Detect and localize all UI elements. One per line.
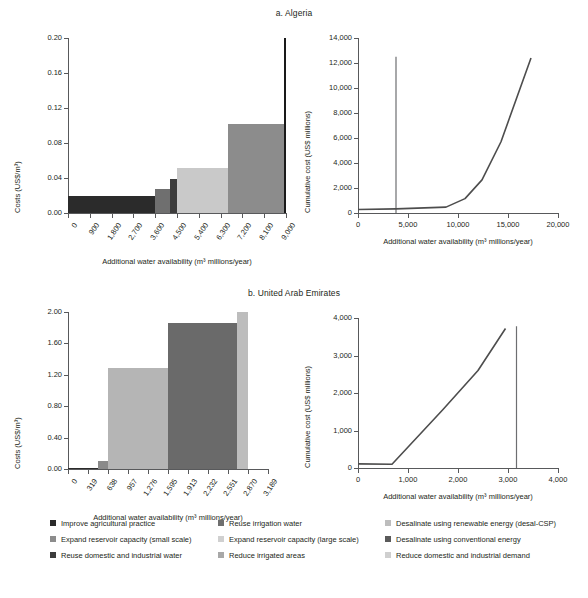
legend-swatch-icon [218,552,224,558]
x-axis-tick [248,470,249,474]
x-axis-title: Additional water availability (m³ millio… [328,492,588,501]
x-axis-tick-label: 2,000 [436,475,480,484]
y-axis-tick [64,375,68,376]
y-axis-tick-label: 0.12 [28,103,62,112]
legend-item: Improve agricultural practice [50,515,220,531]
y-axis-tick [64,38,68,39]
y-axis-tick-label: 2.00 [28,307,62,316]
legend-swatch-icon [50,536,56,542]
bar-segment [108,368,168,469]
x-axis-tick [458,214,459,218]
x-axis-tick [358,469,359,473]
y-axis-tick [354,63,358,64]
bar-segment [68,196,155,214]
y-axis-tick [354,393,358,394]
cumulative-cost-line [358,329,506,465]
chart-uae-cost-curve: 0.000.400.801.201.602.00Costs (US$/m³)03… [0,300,294,515]
y-axis-tick [354,431,358,432]
x-axis-tick [177,214,178,218]
y-axis-tick-label: 1.20 [28,370,62,379]
y-axis-line [68,312,69,469]
x-axis-tick [286,214,287,218]
y-axis-tick [64,438,68,439]
x-axis-tick [148,470,149,474]
y-axis-tick-label: 0 [318,208,352,217]
x-axis-tick [408,214,409,218]
legend-item: Expand reservoir capacity (small scale) [50,531,220,547]
legend-label: Expand reservoir capacity (small scale) [61,535,191,544]
legend-item: Expand reservoir capacity (large scale) [218,531,383,547]
bar-segment [228,124,284,213]
bar-segment [155,189,170,214]
x-axis-tick [264,214,265,218]
legend-label: Desalinate using renewable energy (desal… [396,519,556,528]
x-axis-tick [558,469,559,473]
y-axis-tick-label: 1,000 [318,426,352,435]
legend-item: Desalinate using conventional energy [385,531,585,547]
y-axis-tick-label: 6,000 [318,133,352,142]
y-axis-tick [354,356,358,357]
x-axis-tick [128,470,129,474]
legend-label: Reuse domestic and industrial water [61,551,182,560]
y-axis-tick-label: 3,000 [318,351,352,360]
y-axis-tick-label: 2,000 [318,388,352,397]
legend-label: Expand reservoir capacity (large scale) [229,535,359,544]
bar-segment [98,461,108,469]
x-axis-tick [133,214,134,218]
y-axis-tick [354,188,358,189]
y-axis-title: Costs (US$/m³) [13,417,22,469]
legend-item: Reuse irrigation water [218,515,383,531]
x-axis-tick [508,214,509,218]
x-axis-tick [242,214,243,218]
x-axis-tick [108,470,109,474]
x-axis-tick [168,470,169,474]
bar-segment [168,323,237,469]
y-axis-tick [354,163,358,164]
x-axis-tick [208,470,209,474]
x-axis-tick [155,214,156,218]
y-axis-tick [64,178,68,179]
x-axis-tick [90,214,91,218]
y-axis-tick [64,343,68,344]
panel-title-uae: b. United Arab Emirates [0,288,588,298]
x-axis-tick [199,214,200,218]
x-axis-tick-label: 10,000 [436,220,480,229]
chart-algeria-cost-curve: 0.000.040.080.120.160.20Costs (US$/m³)09… [0,20,294,260]
x-axis-tick-label: 0 [336,220,380,229]
y-axis-tick-label: 0.20 [28,33,62,42]
y-axis-tick-label: 0.16 [28,68,62,77]
legend-swatch-icon [50,520,56,526]
x-axis-tick-label: 4,000 [536,475,580,484]
y-axis-tick-label: 2,000 [318,183,352,192]
y-axis-title: Cumulative cost (US$ millions) [303,366,312,468]
bar-segment [284,38,286,213]
y-axis-title: Cumulative cost (US$ millions) [303,111,312,213]
legend-swatch-icon [218,536,224,542]
y-axis-tick-label: 0.40 [28,433,62,442]
cumulative-cost-line [358,58,531,210]
y-axis-tick [64,108,68,109]
x-axis-tick-label: 15,000 [486,220,530,229]
x-axis-title: Additional water availability (m³ millio… [328,237,588,246]
legend-label: Desalinate using conventional energy [396,535,521,544]
legend-item: Desalinate using renewable energy (desal… [385,515,585,531]
y-axis-tick-label: 10,000 [318,83,352,92]
y-axis-tick-label: 0.00 [28,208,62,217]
bar-segment [177,168,228,213]
panel-title-algeria: a. Algeria [0,8,588,18]
bar-segment [237,312,248,469]
x-axis-tick-label: 5,000 [386,220,430,229]
legend-swatch-icon [218,520,224,526]
y-axis-tick [354,88,358,89]
x-axis-tick [88,470,89,474]
x-axis-tick [221,214,222,218]
y-axis-line [358,38,359,213]
y-axis-tick [354,138,358,139]
legend-label: Reduce irrigated areas [229,551,305,560]
legend-column-2: Reuse irrigation water Expand reservoir … [218,515,383,563]
legend-swatch-icon [385,552,391,558]
x-axis-tick-label: 20,000 [536,220,580,229]
y-axis-tick-label: 4,000 [318,158,352,167]
x-axis-title: Additional water availability (m³ millio… [38,257,316,266]
y-axis-tick-label: 0.08 [28,138,62,147]
